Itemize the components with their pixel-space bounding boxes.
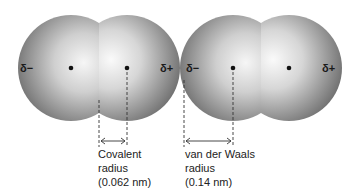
label-line: radius	[185, 161, 255, 175]
covalent-radius-label: Covalent radius (0.062 nm)	[98, 147, 151, 189]
label-line: Covalent	[98, 147, 151, 161]
partial-positive-charge: δ+	[160, 62, 173, 74]
partial-negative-charge: δ−	[20, 62, 33, 74]
nucleus-dot	[287, 66, 292, 71]
van-der-waals-radius-label: van der Waals radius (0.14 nm)	[185, 147, 255, 189]
van-der-waals-diagram: δ− δ+ δ− δ+	[0, 0, 360, 194]
molecule-2: δ− δ+	[180, 15, 342, 121]
label-line: (0.14 nm)	[185, 175, 255, 189]
label-line: van der Waals	[185, 147, 255, 161]
nucleus-dot	[125, 66, 130, 71]
partial-negative-charge: δ−	[186, 62, 199, 74]
label-line: radius	[98, 161, 151, 175]
partial-positive-charge: δ+	[322, 62, 335, 74]
nucleus-dot	[231, 66, 236, 71]
label-line: (0.062 nm)	[98, 175, 151, 189]
nucleus-dot	[69, 66, 74, 71]
